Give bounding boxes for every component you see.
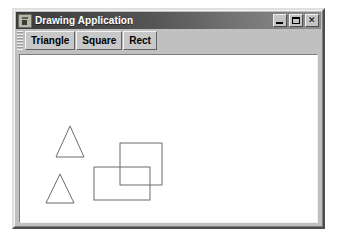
icon-steam-shape — [22, 17, 28, 19]
shape-rect-1[interactable] — [94, 167, 150, 200]
canvas-shape-layer — [20, 55, 317, 222]
shape-square-1[interactable] — [120, 143, 162, 185]
triangle-button[interactable]: Triangle — [25, 31, 75, 50]
desktop-background: Drawing Application ✕ Triangle Square Re… — [0, 0, 346, 246]
icon-cup-shape — [22, 20, 27, 25]
shape-triangle-1[interactable] — [56, 126, 84, 157]
close-icon: ✕ — [306, 15, 318, 26]
rect-button[interactable]: Rect — [123, 31, 157, 50]
window-title: Drawing Application — [35, 14, 133, 27]
shape-triangle-2[interactable] — [46, 174, 74, 203]
minimize-button[interactable] — [273, 14, 287, 27]
square-button[interactable]: Square — [76, 31, 122, 50]
toolbar: Triangle Square Rect — [16, 29, 321, 52]
window-controls: ✕ — [273, 14, 319, 27]
title-bar[interactable]: Drawing Application ✕ — [16, 12, 321, 29]
maximize-button[interactable] — [289, 14, 303, 27]
toolbar-drag-handle[interactable] — [17, 31, 23, 50]
close-button[interactable]: ✕ — [305, 14, 319, 27]
minimize-icon — [276, 22, 283, 24]
java-app-icon — [18, 14, 32, 28]
maximize-icon — [292, 17, 300, 24]
drawing-canvas[interactable] — [19, 54, 318, 223]
application-window: Drawing Application ✕ Triangle Square Re… — [12, 8, 325, 229]
